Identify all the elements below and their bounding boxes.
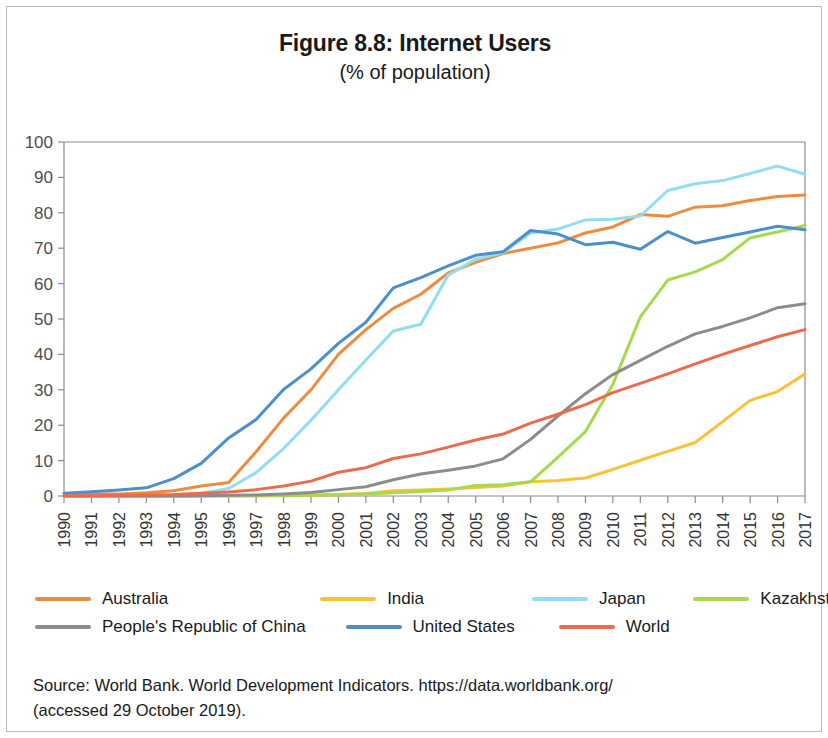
svg-text:2004: 2004 <box>440 512 457 548</box>
svg-text:0: 0 <box>44 487 53 506</box>
legend-item-world[interactable]: World <box>559 617 670 637</box>
svg-text:1993: 1993 <box>138 512 155 548</box>
legend-row-secondary: People's Republic of ChinaUnited StatesW… <box>35 613 825 641</box>
legend-item-people-s-republic-of-china[interactable]: People's Republic of China <box>35 617 306 637</box>
chart-series-lines <box>64 166 805 496</box>
legend-item-australia[interactable]: Australia <box>35 589 168 609</box>
legend-item-label: Australia <box>102 589 168 609</box>
legend-swatch-icon <box>346 625 402 629</box>
source-line-1: Source: World Bank. World Development In… <box>33 673 803 698</box>
svg-text:2003: 2003 <box>413 512 430 548</box>
svg-text:2016: 2016 <box>770 512 787 548</box>
chart-ticks <box>58 142 805 503</box>
chart-legend: AustraliaIndiaJapanKazakhstan People's R… <box>35 585 825 641</box>
y-axis-tick-labels: 0102030405060708090100 <box>25 133 53 506</box>
svg-text:1997: 1997 <box>248 512 265 548</box>
legend-item-label: People's Republic of China <box>102 617 306 637</box>
legend-item-label: India <box>387 589 424 609</box>
source-note: Source: World Bank. World Development In… <box>33 673 803 723</box>
series-line-japan <box>64 166 805 496</box>
svg-text:1995: 1995 <box>193 512 210 548</box>
legend-item-india[interactable]: India <box>320 589 424 609</box>
legend-swatch-icon <box>35 625 91 629</box>
svg-text:2011: 2011 <box>632 512 649 547</box>
svg-text:80: 80 <box>34 204 53 223</box>
svg-text:1994: 1994 <box>166 512 183 548</box>
legend-item-kazakhstan[interactable]: Kazakhstan <box>693 589 828 609</box>
svg-text:30: 30 <box>34 381 53 400</box>
legend-item-label: Kazakhstan <box>760 589 828 609</box>
svg-text:10: 10 <box>34 452 53 471</box>
x-axis-tick-labels: 1990199119921993199419951996199719981999… <box>56 512 814 548</box>
svg-text:70: 70 <box>34 239 53 258</box>
legend-swatch-icon <box>35 597 91 601</box>
svg-text:1991: 1991 <box>83 512 100 548</box>
legend-item-japan[interactable]: Japan <box>532 589 645 609</box>
svg-text:2015: 2015 <box>742 512 759 548</box>
legend-swatch-icon <box>559 625 615 629</box>
series-line-people-s-republic-of-china <box>64 304 805 496</box>
svg-text:2002: 2002 <box>385 512 402 548</box>
svg-text:100: 100 <box>25 133 53 152</box>
legend-swatch-icon <box>693 597 749 601</box>
legend-row-primary: AustraliaIndiaJapanKazakhstan <box>35 585 825 613</box>
svg-text:2017: 2017 <box>797 512 814 548</box>
svg-text:50: 50 <box>34 310 53 329</box>
svg-text:2007: 2007 <box>523 512 540 548</box>
series-line-kazakhstan <box>64 226 805 496</box>
svg-text:2013: 2013 <box>687 512 704 548</box>
svg-text:2012: 2012 <box>660 512 677 548</box>
svg-text:2014: 2014 <box>715 512 732 548</box>
svg-text:1996: 1996 <box>221 512 238 548</box>
svg-text:1992: 1992 <box>111 512 128 548</box>
svg-text:40: 40 <box>34 345 53 364</box>
legend-swatch-icon <box>320 597 376 601</box>
svg-text:2000: 2000 <box>330 512 347 548</box>
figure-frame: Figure 8.8: Internet Users (% of populat… <box>6 6 822 732</box>
svg-text:2009: 2009 <box>577 512 594 548</box>
legend-item-label: World <box>626 617 670 637</box>
svg-text:2001: 2001 <box>358 512 375 548</box>
svg-text:2008: 2008 <box>550 512 567 548</box>
svg-text:1999: 1999 <box>303 512 320 548</box>
legend-item-label: Japan <box>599 589 645 609</box>
svg-text:60: 60 <box>34 275 53 294</box>
svg-text:1990: 1990 <box>56 512 73 548</box>
svg-text:20: 20 <box>34 416 53 435</box>
svg-text:2005: 2005 <box>468 512 485 548</box>
legend-item-label: United States <box>413 617 515 637</box>
svg-text:90: 90 <box>34 168 53 187</box>
svg-text:2010: 2010 <box>605 512 622 548</box>
legend-swatch-icon <box>532 597 588 601</box>
svg-text:2006: 2006 <box>495 512 512 548</box>
series-line-united-states <box>64 226 805 493</box>
svg-text:1998: 1998 <box>276 512 293 548</box>
legend-item-united-states[interactable]: United States <box>346 617 515 637</box>
source-line-2: (accessed 29 October 2019). <box>33 698 803 723</box>
